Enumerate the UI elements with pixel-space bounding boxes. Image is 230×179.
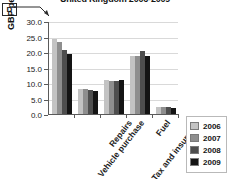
bar-group (52, 21, 72, 114)
legend-swatch-2007 (190, 134, 199, 142)
y-tick-label: 5.0 (31, 95, 42, 104)
category-label-fuel: Fuel (154, 118, 173, 138)
plot-area: 30.025.020.015.010.05.00.0 (48, 22, 178, 115)
y-tick-mark (44, 115, 48, 116)
legend: 2006200720082009 (186, 116, 227, 173)
bar-other-costs-2009[interactable] (171, 108, 176, 115)
legend-item-2009[interactable]: 2009 (190, 156, 226, 168)
bar-group (156, 21, 176, 114)
legend-item-2008[interactable]: 2008 (190, 144, 226, 156)
bar-fuel-2009[interactable] (145, 56, 150, 114)
legend-label-2007: 2007 (203, 134, 221, 143)
y-tick-label: 15.0 (26, 64, 42, 73)
callout-leader-line (14, 2, 54, 18)
x-tick-mark (100, 114, 101, 118)
legend-item-2007[interactable]: 2007 (190, 132, 226, 144)
bar-vehicle-purchase-2009[interactable] (67, 54, 72, 114)
bar-group (130, 21, 150, 114)
y-axis-title: GBP per week (6, 0, 16, 30)
legend-swatch-2006 (190, 122, 199, 130)
y-tick-label: 30.0 (26, 18, 42, 27)
y-axis-line (48, 22, 49, 115)
legend-item-2006[interactable]: 2006 (190, 120, 226, 132)
x-axis-line (48, 114, 178, 115)
y-tick-label: 10.0 (26, 80, 42, 89)
x-tick-mark (152, 114, 153, 118)
legend-swatch-2009 (190, 158, 199, 166)
legend-label-2009: 2009 (203, 158, 221, 167)
x-tick-mark (74, 114, 75, 118)
bar-tax-and-insurance-2009[interactable] (119, 80, 124, 114)
y-tick-label: 25.0 (26, 33, 42, 42)
y-tick-label: 20.0 (26, 49, 42, 58)
y-tick-label: 0.0 (31, 111, 42, 120)
legend-label-2006: 2006 (203, 122, 221, 131)
x-tick-mark (178, 114, 179, 118)
legend-swatch-2008 (190, 146, 199, 154)
bar-group (104, 21, 124, 114)
bar-group (78, 21, 98, 114)
bar-repairs-2009[interactable] (93, 91, 98, 114)
legend-label-2008: 2008 (203, 146, 221, 155)
